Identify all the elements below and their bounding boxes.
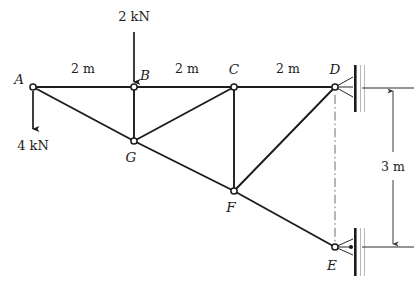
node-label-B: B bbox=[139, 67, 150, 83]
member-G-F bbox=[134, 141, 234, 191]
node-label-G: G bbox=[126, 149, 137, 165]
joint-A bbox=[30, 84, 36, 90]
member-A-G bbox=[33, 87, 134, 141]
dim-label-height: 3 m bbox=[381, 159, 405, 174]
node-label-E: E bbox=[326, 257, 337, 273]
joint-B bbox=[131, 84, 137, 90]
joint-D bbox=[332, 84, 338, 90]
joint-F bbox=[231, 188, 237, 194]
node-label-A: A bbox=[12, 71, 24, 87]
joint-C bbox=[231, 84, 237, 90]
node-label-F: F bbox=[225, 199, 236, 215]
pin-dot-E bbox=[349, 245, 353, 249]
node-label-D: D bbox=[329, 61, 341, 77]
load-label-2kN: 2 kN bbox=[118, 9, 150, 24]
joint-E bbox=[332, 244, 338, 250]
wall-plate-top bbox=[354, 65, 357, 112]
member-F-E bbox=[234, 191, 335, 247]
member-G-C bbox=[134, 87, 234, 141]
truss-diagram-canvas: A B C D G F E 2 m 2 m 2 m 3 m 2 kN 4 kN bbox=[0, 0, 420, 283]
member-F-D bbox=[234, 87, 335, 191]
load-labels-group: 2 kN 4 kN bbox=[17, 9, 150, 153]
joint-G bbox=[131, 138, 137, 144]
dim-label-A-B: 2 m bbox=[71, 61, 95, 76]
wall-plate-bottom bbox=[354, 228, 357, 276]
wall-hatch-bottom bbox=[357, 228, 368, 276]
node-label-C: C bbox=[229, 61, 240, 77]
dim-label-B-C: 2 m bbox=[175, 61, 199, 76]
wall-supports-group bbox=[335, 65, 368, 276]
truss-members-group bbox=[33, 87, 335, 247]
node-labels-group: A B C D G F E bbox=[12, 61, 340, 273]
support-E-wall bbox=[335, 228, 368, 276]
load-label-4kN: 4 kN bbox=[17, 138, 49, 153]
truss-diagram-figure: A B C D G F E 2 m 2 m 2 m 3 m 2 kN 4 kN bbox=[0, 0, 420, 283]
dim-label-C-D: 2 m bbox=[276, 61, 300, 76]
